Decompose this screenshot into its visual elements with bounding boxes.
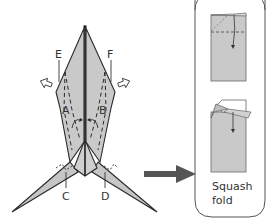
origami-diagram: E F A B C D Sq (0, 0, 269, 223)
squash-fold-inset: Squash fold (195, 0, 265, 217)
label-f: F (107, 48, 113, 61)
label-e: E (55, 48, 62, 61)
inset-step2-paper (211, 100, 251, 172)
inset-caption-line2: fold (212, 194, 233, 207)
label-a: A (62, 104, 70, 117)
label-d: D (101, 190, 109, 203)
label-c: C (62, 190, 70, 203)
inset-caption-line1: Squash (212, 180, 252, 193)
push-arrow-right-icon (117, 76, 132, 90)
push-arrow-left-icon (39, 76, 54, 90)
right-tail-flap (92, 162, 157, 212)
next-step-arrow-icon (144, 165, 196, 183)
label-b: B (99, 104, 107, 117)
left-tail-flap (12, 162, 78, 212)
inset-box-top-curve-right (255, 0, 265, 10)
inset-box-top-curve (195, 0, 205, 10)
inset-step1-paper (211, 13, 246, 81)
origami-model: E F A B C D (12, 26, 157, 212)
